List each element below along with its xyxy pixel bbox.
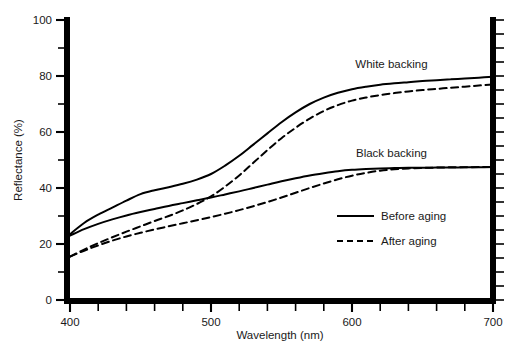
y-tick-label: 60 xyxy=(39,126,52,138)
y-tick-label: 40 xyxy=(39,182,52,194)
legend-label-before-aging: Before aging xyxy=(381,210,446,222)
reflectance-chart-figure: 400500600700020406080100 White backingBl… xyxy=(0,0,522,352)
legend-label-after-aging: After aging xyxy=(381,235,437,247)
annotation-0: White backing xyxy=(355,58,427,70)
x-tick-label: 600 xyxy=(342,316,361,328)
y-tick-label: 100 xyxy=(33,14,52,26)
y-tick-label: 0 xyxy=(46,294,52,306)
x-tick-label: 400 xyxy=(60,316,79,328)
x-axis-title: Wavelength (nm) xyxy=(236,329,323,341)
chart-svg: 400500600700020406080100 White backingBl… xyxy=(0,0,522,352)
x-tick-label: 700 xyxy=(483,316,502,328)
annotation-1: Black backing xyxy=(356,147,427,159)
y-axis-title: Reflectance (%) xyxy=(12,119,24,201)
x-tick-label: 500 xyxy=(201,316,220,328)
y-tick-label: 80 xyxy=(39,70,52,82)
y-tick-label: 20 xyxy=(39,238,52,250)
